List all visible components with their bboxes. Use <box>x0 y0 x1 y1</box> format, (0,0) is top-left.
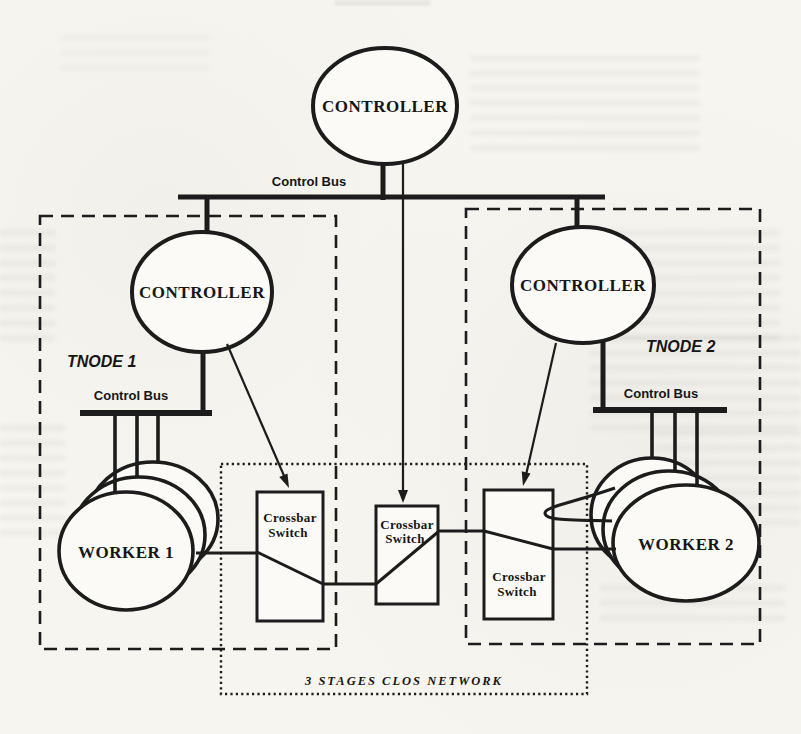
tnode1-control-bus-label: Control Bus <box>94 388 168 403</box>
crossbar-switch-2-label-line1: Crossbar <box>380 517 433 532</box>
tnode1-title: TNODE 1 <box>67 353 136 370</box>
clos-network-title: 3 STAGES CLOS NETWORK <box>304 674 503 688</box>
system-architecture-diagram: Control Bus Control Bus TNODE 1 Control … <box>0 0 801 734</box>
crossbar-switch-1-label-line2: Switch <box>268 525 308 540</box>
crossbar-switch-1-label-line1: Crossbar <box>263 510 316 525</box>
crossbar-switch-3-label-line1: Crossbar <box>492 569 545 584</box>
top-controller-label: CONTROLLER <box>322 97 448 116</box>
crossbar-switch-3-label-line2: Switch <box>497 584 537 599</box>
crossbar-switch-3 <box>484 490 553 619</box>
tnode1-controller-label: CONTROLLER <box>139 283 265 302</box>
tnode2-controller-label: CONTROLLER <box>520 276 646 295</box>
tnode2-title: TNODE 2 <box>646 338 715 355</box>
tnode2-control-bus-label: Control Bus <box>624 386 698 401</box>
worker1-label: WORKER 1 <box>78 543 174 562</box>
tnode2-controller-to-switch3-arrowhead <box>522 471 531 486</box>
tnode1-controller-to-switch1-arrow-line <box>227 344 285 478</box>
tnode2-controller-to-switch3-arrow-line <box>526 343 556 475</box>
top-control-bus-label: Control Bus <box>272 174 346 189</box>
crossbar-switch-2-label-line2: Switch <box>385 531 425 546</box>
scanned-diagram-page: Control Bus Control Bus TNODE 1 Control … <box>0 0 801 734</box>
worker2-label: WORKER 2 <box>638 535 734 554</box>
tnode1-controller-to-switch1-arrowhead <box>279 473 289 488</box>
top-controller-to-switch2-arrowhead <box>398 490 408 503</box>
